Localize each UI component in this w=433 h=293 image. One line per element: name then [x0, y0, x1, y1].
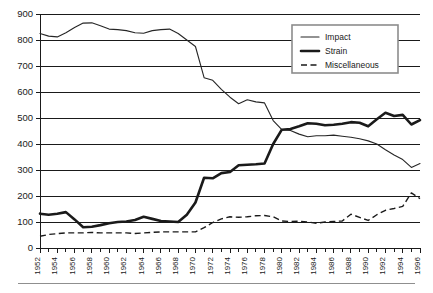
x-tick-label: 1996	[413, 256, 422, 274]
x-axis-tick-labels: 1952195419561958196019621964196619681970…	[33, 256, 422, 274]
x-tick-label: 1968	[171, 256, 180, 274]
x-tick-label: 1980	[275, 256, 284, 274]
legend-label-miscellaneous[interactable]: Miscellaneous	[325, 60, 379, 70]
x-tick-label: 1994	[396, 256, 405, 274]
y-tick-label: 0	[28, 242, 33, 253]
x-tick-label: 1952	[33, 256, 42, 274]
x-tick-label: 1962	[119, 256, 128, 274]
x-tick-label: 1966	[154, 256, 163, 274]
y-tick-label: 400	[17, 138, 33, 149]
y-tick-label: 200	[17, 190, 33, 201]
x-tick-label: 1964	[137, 256, 146, 274]
x-tick-label: 1978	[258, 256, 267, 274]
x-tick-label: 1976	[240, 256, 249, 274]
legend-label-impact[interactable]: Impact	[325, 32, 351, 42]
y-tick-label: 100	[17, 216, 33, 227]
y-tick-label: 300	[17, 164, 33, 175]
x-tick-label: 1974	[223, 256, 232, 274]
x-tick-label: 1970	[188, 256, 197, 274]
y-tick-label: 900	[17, 8, 33, 19]
x-tick-label: 1988	[344, 256, 353, 274]
line-chart: 9008007006005004003002001000 19521954195…	[0, 0, 433, 293]
y-tick-label: 600	[17, 86, 33, 97]
x-tick-label: 1984	[309, 256, 318, 274]
x-tick-label: 1956	[68, 256, 77, 274]
x-tick-label: 1958	[85, 256, 94, 274]
x-tick-label: 1992	[378, 256, 387, 274]
y-tick-label: 800	[17, 34, 33, 45]
chart-svg: 9008007006005004003002001000 19521954195…	[0, 0, 433, 293]
chart-legend[interactable]: ImpactStrainMiscellaneous	[292, 25, 398, 73]
x-tick-label: 1982	[292, 256, 301, 274]
y-tick-label: 700	[17, 60, 33, 71]
x-tick-label: 1986	[327, 256, 336, 274]
x-tick-label: 1990	[361, 256, 370, 274]
x-tick-label: 1954	[50, 256, 59, 274]
legend-label-strain[interactable]: Strain	[325, 46, 347, 56]
x-tick-label: 1972	[206, 256, 215, 274]
x-tick-label: 1960	[102, 256, 111, 274]
y-tick-label: 500	[17, 112, 33, 123]
